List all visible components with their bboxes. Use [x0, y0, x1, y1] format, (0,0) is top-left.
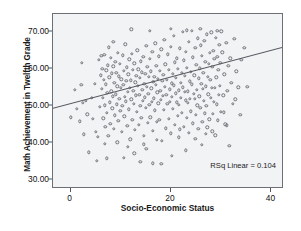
x-tick-label: 0 — [50, 193, 90, 203]
rsq-annotation: RSq Linear = 0.104 — [210, 161, 276, 170]
x-axis-title: Socio-Economic Status — [52, 203, 283, 213]
y-tick-label: 30.00 — [3, 174, 49, 184]
x-tick-label: 40 — [250, 193, 290, 203]
y-tick-label: 40.00 — [3, 137, 49, 147]
plot-area: RSq Linear = 0.104 — [52, 13, 283, 188]
x-tick-mark — [170, 188, 171, 192]
y-tick-label: 50.00 — [3, 100, 49, 110]
y-tick-label: 60.00 — [3, 63, 49, 73]
scatter-plot-figure: Math Achievement in Twelfth Grade 30.004… — [0, 0, 301, 231]
x-tick-label: 20 — [150, 193, 190, 203]
x-tick-mark — [270, 188, 271, 192]
y-tick-label: 70.00 — [3, 26, 49, 36]
x-tick-mark — [70, 188, 71, 192]
